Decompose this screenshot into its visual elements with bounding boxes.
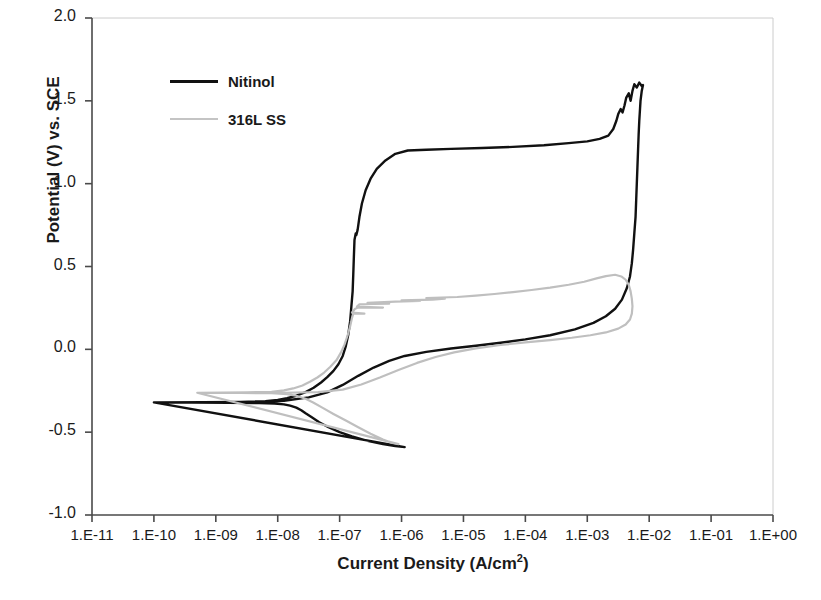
polarization-curve-plot [0,0,821,600]
y-tick-label: 0.0 [16,338,76,356]
x-axis-title-tail: ) [523,554,529,573]
legend-swatch-316l-ss [170,118,218,120]
y-tick-label: -1.0 [16,504,76,522]
y-tick-label: 2.0 [16,7,76,25]
chart-legend: Nitinol 316L SS [170,62,286,138]
caption-strip [0,580,821,600]
x-axis-title: Current Density (A/cm2) [92,552,774,574]
y-tick-label: 1.5 [16,90,76,108]
x-axis-title-base: Current Density (A/cm [337,554,516,573]
legend-item-nitinol: Nitinol [170,62,286,100]
legend-label-nitinol: Nitinol [228,73,275,90]
legend-swatch-nitinol [170,80,218,83]
x-tick-label: 1.E+00 [733,526,813,543]
y-tick-label: -0.5 [16,421,76,439]
chart-figure: Potential (V) vs. SCE Current Density (A… [0,0,821,600]
y-tick-label: 0.5 [16,256,76,274]
y-tick-label: 1.0 [16,173,76,191]
legend-item-316l-ss: 316L SS [170,100,286,138]
series-line-316l-ss [197,275,632,444]
legend-label-316l-ss: 316L SS [228,111,286,128]
